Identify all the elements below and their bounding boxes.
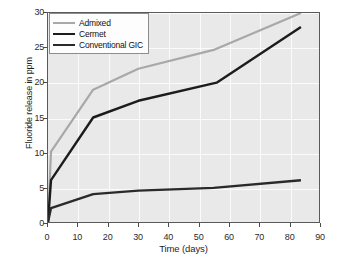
x-tick-mark <box>259 223 260 227</box>
x-tick-mark <box>199 223 200 227</box>
legend-item-admixed: Admixed <box>53 17 144 28</box>
y-axis-label: Fluoride release in ppm <box>24 23 34 183</box>
legend-line-swatch <box>53 44 75 46</box>
fluoride-release-line-chart: 051015202530 0102030405060708090 Fluorid… <box>0 0 339 262</box>
legend-line-swatch <box>53 22 75 24</box>
legend-line-swatch <box>53 33 75 35</box>
x-tick-label: 60 <box>214 233 244 242</box>
x-tick-label: 40 <box>153 233 183 242</box>
x-axis-label: Time (days) <box>47 243 320 254</box>
legend-item-cermet: Cermet <box>53 28 144 39</box>
x-tick-mark <box>290 223 291 227</box>
x-tick-label: 50 <box>184 233 214 242</box>
legend: AdmixedCermetConventional GIC <box>49 13 149 54</box>
y-tick-label: 10 <box>2 149 44 158</box>
x-tick-mark <box>320 223 321 227</box>
x-axis-ticks: 0102030405060708090 <box>47 227 320 241</box>
y-tick-label: 0 <box>2 219 44 228</box>
x-tick-mark <box>77 223 78 227</box>
x-tick-label: 20 <box>93 233 123 242</box>
series-line-cermet <box>48 27 301 222</box>
legend-label: Admixed <box>79 18 111 28</box>
y-axis-ticks: 051015202530 <box>0 0 44 262</box>
x-tick-mark <box>138 223 139 227</box>
x-tick-label: 80 <box>275 233 305 242</box>
x-tick-label: 30 <box>123 233 153 242</box>
y-tick-label: 20 <box>2 78 44 87</box>
series-line-conventional-gic <box>48 180 301 222</box>
y-tick-label: 5 <box>2 184 44 193</box>
x-tick-mark <box>47 223 48 227</box>
x-tick-label: 10 <box>62 233 92 242</box>
y-tick-label: 15 <box>2 114 44 123</box>
x-tick-label: 90 <box>305 233 335 242</box>
legend-label: Conventional GIC <box>79 40 143 50</box>
x-tick-mark <box>229 223 230 227</box>
x-tick-label: 0 <box>32 233 62 242</box>
legend-label: Cermet <box>79 29 106 39</box>
x-tick-label: 70 <box>244 233 274 242</box>
legend-item-conventional-gic: Conventional GIC <box>53 39 144 50</box>
x-tick-mark <box>168 223 169 227</box>
y-tick-label: 30 <box>2 8 44 17</box>
x-tick-mark <box>108 223 109 227</box>
y-tick-label: 25 <box>2 43 44 52</box>
